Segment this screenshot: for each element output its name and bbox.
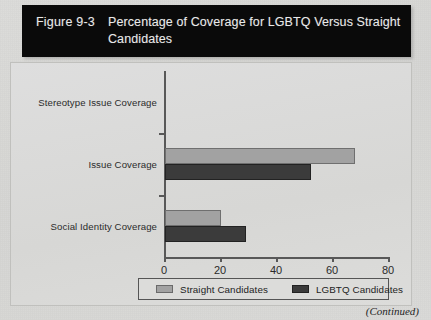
bar-lgbtq [165, 164, 311, 180]
x-axis-tick-label: 40 [270, 264, 282, 276]
continued-note: (Continued) [366, 305, 419, 317]
legend-label-straight: Straight Candidates [180, 284, 268, 295]
legend-item-straight-candidates: Straight Candidates [156, 284, 268, 295]
bar-lgbtq [165, 226, 246, 242]
y-axis-tick [159, 133, 164, 135]
x-axis-tick [388, 257, 390, 262]
category-label: Social Identity Coverage [51, 221, 157, 232]
figure-title-banner: Figure 9-3 Percentage of Coverage for LG… [22, 5, 411, 57]
figure-title-text: Percentage of Coverage for LGBTQ Versus … [108, 14, 403, 47]
x-axis-tick-label: 60 [326, 264, 338, 276]
figure-title-row: Figure 9-3 Percentage of Coverage for LG… [36, 14, 403, 47]
bar-straight [165, 210, 221, 226]
legend-label-lgbtq: LGBTQ Candidates [316, 284, 403, 295]
x-axis-tick-label: 80 [382, 264, 394, 276]
chart-legend: Straight Candidates LGBTQ Candidates [138, 278, 389, 300]
figure-number: Figure 9-3 [36, 14, 95, 31]
x-axis-tick-label: 0 [161, 264, 167, 276]
bar-straight [165, 148, 355, 164]
plot-area: 020406080 Stereotype Issue CoverageIssue… [164, 71, 388, 257]
x-axis-tick [220, 257, 222, 262]
x-axis-tick-label: 20 [214, 264, 226, 276]
chart-frame: 020406080 Stereotype Issue CoverageIssue… [10, 62, 412, 306]
x-axis-tick [164, 257, 166, 262]
legend-swatch-icon-lgbtq [292, 285, 309, 293]
legend-swatch-icon-straight [156, 285, 173, 293]
category-label: Stereotype Issue Coverage [38, 97, 157, 108]
y-axis-tick [159, 195, 164, 197]
legend-item-lgbtq-candidates: LGBTQ Candidates [292, 284, 403, 295]
x-axis-tick [332, 257, 334, 262]
x-axis-tick [276, 257, 278, 262]
category-label: Issue Coverage [88, 159, 157, 170]
